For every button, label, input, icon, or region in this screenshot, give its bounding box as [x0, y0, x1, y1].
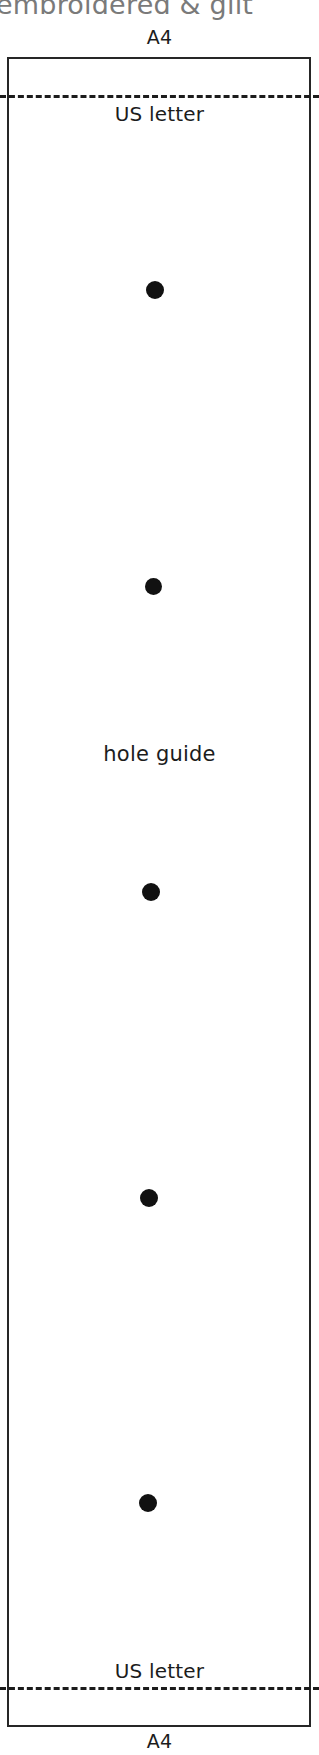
- clipped-heading-text: embroidered & gilt: [0, 0, 253, 22]
- hole-marker: [142, 883, 160, 901]
- us-letter-label-bottom: US letter: [0, 1659, 319, 1683]
- hole-marker: [140, 1189, 158, 1207]
- sheet-label-bottom: A4: [0, 1730, 319, 1752]
- clipped-heading: embroidered & gilt: [0, 0, 319, 22]
- us-letter-label-top: US letter: [0, 102, 319, 126]
- hole-marker: [145, 578, 162, 595]
- hole-guide-label: hole guide: [0, 742, 319, 767]
- us-letter-trimline-top: [0, 95, 319, 98]
- page-canvas: embroidered & gilt A4 US letter US lette…: [0, 0, 319, 1755]
- us-letter-trimline-bottom: [0, 1687, 319, 1690]
- hole-marker: [139, 1494, 157, 1512]
- sheet-label-top: A4: [0, 26, 319, 48]
- hole-marker: [146, 281, 164, 299]
